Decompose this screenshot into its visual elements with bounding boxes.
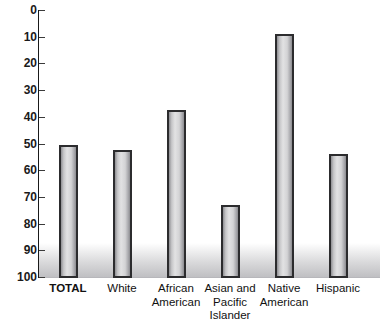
bar [59,145,78,278]
bar [329,154,348,278]
bar [275,34,294,278]
bar-chart: 1009080706050403020100 TOTALWhiteAfrican… [0,0,380,329]
x-axis-label-line: American [247,296,321,310]
bar [113,150,132,278]
bar [221,205,240,278]
plot-area: 1009080706050403020100 TOTALWhiteAfrican… [0,0,380,329]
bar-series [0,0,380,329]
x-axis-label-line: Islander [193,309,267,323]
x-axis-label-line: Hispanic [301,282,375,296]
bar [167,110,186,278]
x-axis-label: Hispanic [301,282,375,296]
